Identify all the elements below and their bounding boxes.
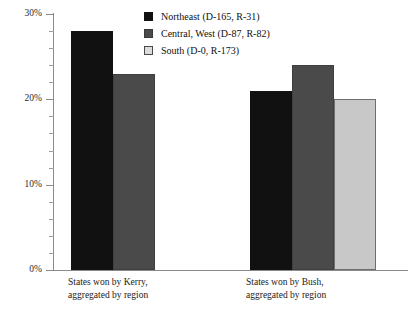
y-tick-major <box>46 270 54 271</box>
legend-item-south: South (D-0, R-173) <box>144 42 270 59</box>
y-tick-minor <box>49 31 54 32</box>
y-tick-minor <box>49 168 54 169</box>
legend-swatch-icon-northeast <box>144 12 153 21</box>
bar <box>71 31 113 270</box>
y-tick-minor <box>49 133 54 134</box>
legend-swatch-icon-south <box>144 46 153 55</box>
y-tick-label: 30% <box>25 9 42 19</box>
y-axis-line <box>53 13 54 271</box>
y-tick-label: 20% <box>25 94 42 104</box>
bar <box>292 65 334 270</box>
y-tick-minor <box>49 65 54 66</box>
x-axis-line <box>53 270 408 271</box>
legend-item-central-west: Central, West (D-87, R-82) <box>144 25 270 42</box>
y-tick-minor <box>49 202 54 203</box>
y-tick-minor <box>49 236 54 237</box>
x-axis-group-label-bush: States won by Bush, aggregated by region <box>246 276 326 301</box>
y-tick-minor <box>49 253 54 254</box>
y-tick-minor <box>49 116 54 117</box>
y-tick-label: 0% <box>29 265 42 275</box>
y-tick-minor <box>49 48 54 49</box>
x-axis-group-label-kerry: States won by Kerry, aggregated by regio… <box>68 276 148 301</box>
y-tick-major <box>46 99 54 100</box>
bar-chart: 0%10%20%30% States won by Kerry, aggrega… <box>0 0 410 309</box>
y-tick-minor <box>49 82 54 83</box>
y-tick-minor <box>49 219 54 220</box>
y-tick-minor <box>49 151 54 152</box>
y-tick-major <box>46 14 54 15</box>
legend-label-south: South (D-0, R-173) <box>161 45 239 56</box>
bar <box>113 74 155 270</box>
y-tick-major <box>46 185 54 186</box>
legend-item-northeast: Northeast (D-165, R-31) <box>144 8 270 25</box>
y-tick-label: 10% <box>25 180 42 190</box>
legend: Northeast (D-165, R-31) Central, West (D… <box>144 8 270 59</box>
bar <box>250 91 292 270</box>
bar <box>334 99 376 270</box>
legend-label-northeast: Northeast (D-165, R-31) <box>161 11 260 22</box>
legend-label-central-west: Central, West (D-87, R-82) <box>161 28 270 39</box>
legend-swatch-icon-central-west <box>144 29 153 38</box>
